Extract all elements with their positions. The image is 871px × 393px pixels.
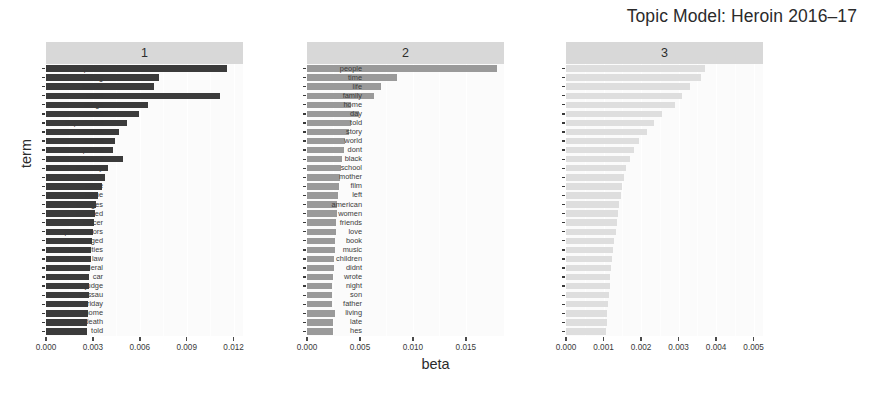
- y-axis-tick: [562, 249, 565, 250]
- bar: [46, 93, 220, 99]
- facet-strip-1: 1: [46, 42, 243, 64]
- y-axis-tick: [42, 240, 45, 241]
- y-axis-tick: [562, 104, 565, 105]
- bar: [566, 328, 606, 334]
- y-axis-tick: [303, 258, 306, 259]
- gridline-major: [679, 64, 680, 336]
- y-axis-tick-label: friday: [85, 300, 103, 307]
- x-axis-tick-label: 0.004: [696, 343, 736, 352]
- bar: [566, 74, 701, 80]
- x-axis-tick: [640, 337, 641, 341]
- x-axis-tick-label: 0.003: [73, 343, 113, 352]
- x-axis-tick-label: 0.001: [584, 343, 624, 352]
- bar: [307, 292, 332, 298]
- y-axis-tick: [42, 267, 45, 268]
- y-axis-tick: [42, 276, 45, 277]
- y-axis-tick-label: federal: [80, 264, 103, 271]
- bar: [307, 319, 333, 325]
- bar: [566, 256, 612, 262]
- topic-model-chart: Topic Model: Heroin 2016–17 term beta 1 …: [0, 0, 871, 393]
- facet-strip-3: 3: [566, 42, 763, 64]
- y-axis-tick: [42, 149, 45, 150]
- y-axis-tick: [562, 295, 565, 296]
- bar: [307, 310, 335, 316]
- y-axis-tick-label: drug: [88, 74, 103, 81]
- x-axis-tick: [412, 337, 413, 341]
- bar: [566, 147, 634, 153]
- y-axis-tick: [303, 276, 306, 277]
- y-axis-tick-label: father: [343, 300, 362, 307]
- y-axis-tick-label: home: [85, 309, 104, 316]
- bar: [46, 283, 89, 289]
- y-axis-tick-label: criminal: [78, 173, 103, 180]
- y-axis-tick-label: film: [351, 182, 363, 189]
- y-axis-tick: [562, 204, 565, 205]
- gridline-minor: [439, 64, 440, 336]
- y-axis-tick-label: home: [344, 101, 363, 108]
- y-axis-tick: [42, 113, 45, 114]
- bar: [307, 192, 338, 198]
- x-axis-tick: [186, 337, 187, 341]
- y-axis-tick: [303, 195, 306, 196]
- y-axis-tick: [42, 222, 45, 223]
- bar: [307, 219, 336, 225]
- bar: [46, 256, 91, 262]
- x-axis-tick: [139, 337, 140, 341]
- facet-strip-label: 2: [307, 46, 504, 60]
- y-axis-tick-label: friends: [340, 219, 362, 226]
- y-axis-tick: [562, 177, 565, 178]
- y-axis-tick-label: officers: [79, 110, 103, 117]
- y-axis-tick-label: story: [346, 128, 362, 135]
- bar: [566, 120, 654, 126]
- bar: [307, 165, 341, 171]
- y-axis-tick-label: time: [348, 74, 362, 81]
- bar: [566, 247, 613, 253]
- y-axis-tick: [562, 331, 565, 332]
- y-axis-tick: [562, 122, 565, 123]
- bar: [46, 310, 88, 316]
- bar: [307, 138, 345, 144]
- bar: [566, 238, 614, 244]
- y-axis-tick: [562, 267, 565, 268]
- bar: [566, 219, 617, 225]
- y-axis-tick: [562, 149, 565, 150]
- x-axis-tick: [603, 337, 604, 341]
- y-axis-tick: [303, 149, 306, 150]
- y-axis-tick-label: charges: [77, 201, 103, 208]
- bar: [307, 174, 340, 180]
- y-axis-tick-label: life: [353, 83, 362, 90]
- y-axis-tick: [562, 285, 565, 286]
- y-axis-tick: [42, 95, 45, 96]
- y-axis-tick: [562, 276, 565, 277]
- bar: [307, 301, 332, 307]
- y-axis-tick-label: crime: [85, 191, 103, 198]
- y-axis-tick: [562, 240, 565, 241]
- y-axis-tick: [303, 240, 306, 241]
- y-axis-tick: [303, 231, 306, 232]
- y-axis-tick: [562, 113, 565, 114]
- y-axis-tick-label: night: [346, 282, 362, 289]
- gridline-major: [234, 64, 235, 336]
- y-axis-tick: [42, 313, 45, 314]
- y-axis-tick-label: charged: [76, 237, 103, 244]
- y-axis-tick: [562, 168, 565, 169]
- x-axis-tick-label: 0.009: [167, 343, 207, 352]
- y-axis-tick-label: world: [344, 137, 362, 144]
- x-axis-tick: [92, 337, 93, 341]
- bar: [46, 147, 113, 153]
- y-axis-tick: [303, 304, 306, 305]
- y-axis-tick: [42, 204, 45, 205]
- x-axis-tick-label: 0.000: [546, 343, 586, 352]
- x-axis-tick: [45, 337, 46, 341]
- y-axis-tick-label: office: [85, 182, 103, 189]
- y-axis-tick: [303, 285, 306, 286]
- y-axis-tick: [42, 195, 45, 196]
- y-axis-tick: [42, 159, 45, 160]
- y-axis-tick-label: people: [340, 65, 362, 72]
- y-axis-tick: [562, 322, 565, 323]
- y-axis-tick-label: dont: [348, 146, 362, 153]
- y-axis-tick: [303, 86, 306, 87]
- bar: [566, 229, 616, 235]
- bar: [307, 183, 339, 189]
- y-axis-tick-label: drugs: [85, 101, 104, 108]
